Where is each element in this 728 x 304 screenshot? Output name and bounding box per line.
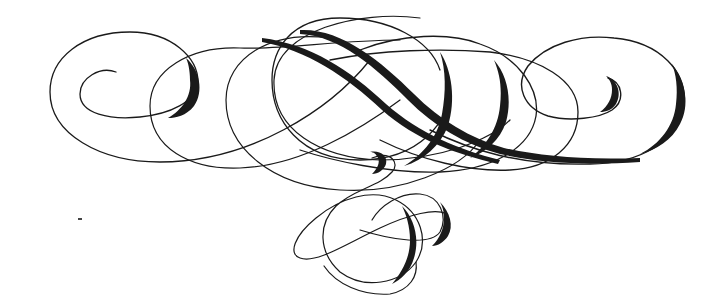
upper-curl-shade [370,152,386,174]
right-spiral-shade [640,64,686,154]
calligraphic-flourish [0,0,728,304]
lower-curl [294,156,446,283]
lower-right-loop [360,194,443,240]
thick-strokes-group [168,30,686,284]
middle-loop-a [226,37,480,191]
bottom-tail [324,262,416,294]
left-outer-spiral [50,32,370,162]
ink-dot [78,218,82,220]
right-second-loop [330,50,578,170]
